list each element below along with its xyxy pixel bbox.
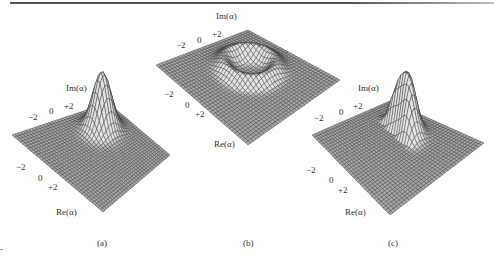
im-tick-c-0: −2 <box>314 113 324 123</box>
caption-c: (c) <box>388 238 398 248</box>
re-tick-c-1: 0 <box>329 175 334 185</box>
re-tick-c-0: −2 <box>306 165 316 175</box>
re-tick-c-2: +2 <box>338 185 348 195</box>
im-tick-c-2: +2 <box>353 101 363 111</box>
re-axis-title-c: Re(α) <box>345 207 366 217</box>
im-axis-title-c: Im(α) <box>358 83 379 93</box>
im-tick-c-1: 0 <box>339 107 344 117</box>
panel-c: Im(α) −2 0 +2 −2 0 +2 Re(α) (c) <box>0 0 494 258</box>
surface-plot-c <box>0 0 494 258</box>
